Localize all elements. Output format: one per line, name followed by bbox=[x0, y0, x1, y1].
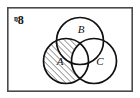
set-label-b: B bbox=[78, 23, 85, 35]
venn-diagram-canvas: ᵑ8 B A C bbox=[0, 0, 140, 98]
set-label-a: A bbox=[56, 55, 64, 67]
universal-set-symbol: ᵑ8 bbox=[14, 13, 24, 27]
set-label-c: C bbox=[96, 55, 104, 67]
venn-diagram-figure: ᵑ8 B A C bbox=[0, 0, 140, 98]
